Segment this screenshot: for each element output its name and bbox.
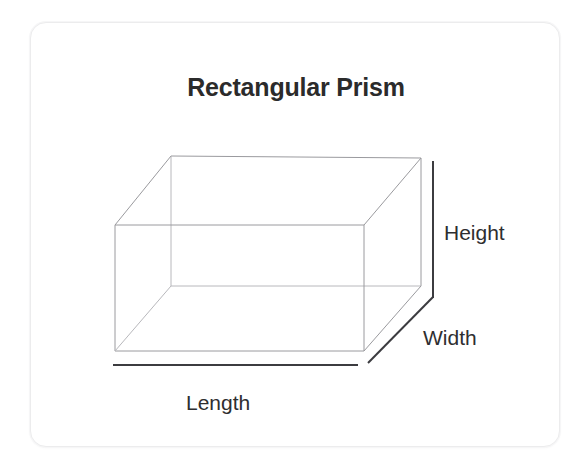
diagram-canvas: Rectangular Prism [0, 0, 587, 471]
diagram-card: Rectangular Prism [30, 22, 560, 447]
prism-depth-edges [115, 156, 421, 351]
prism-back-face [171, 156, 421, 286]
page-title: Rectangular Prism [31, 73, 561, 102]
length-label: Length [186, 391, 250, 415]
width-label: Width [423, 326, 477, 350]
height-label: Height [444, 221, 505, 245]
prism-front-face [115, 225, 364, 351]
